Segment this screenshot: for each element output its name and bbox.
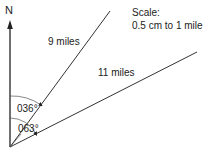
bearing-063-label: 063°: [18, 124, 39, 134]
scale-value: 0.5 cm to 1 mile: [132, 21, 203, 31]
leg-11-miles-label: 11 miles: [98, 68, 135, 78]
leg-9-miles-label: 9 miles: [48, 37, 80, 47]
north-arrow-icon: [7, 20, 13, 29]
inner-tick: [10, 134, 21, 147]
north-label: N: [5, 5, 13, 16]
scale-title: Scale:: [132, 8, 160, 18]
bearing-036-label: 036°: [17, 104, 38, 114]
